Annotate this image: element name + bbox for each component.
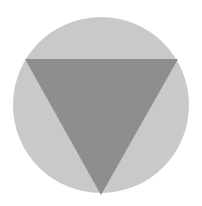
circle-triangle-icon <box>0 0 202 206</box>
